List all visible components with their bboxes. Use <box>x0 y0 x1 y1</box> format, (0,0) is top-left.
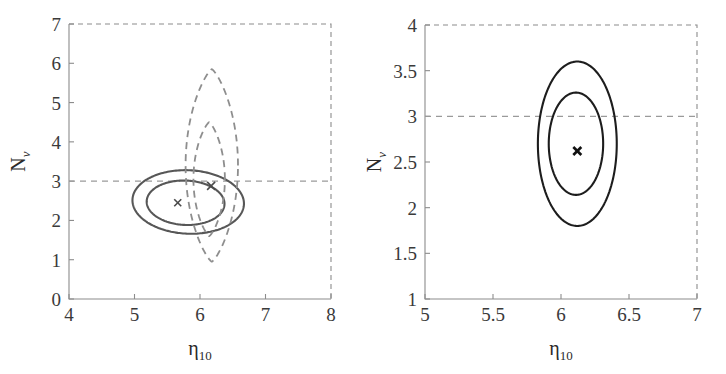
axis-frame-dashed-right <box>425 25 697 299</box>
best-fit-marker-a-left <box>174 199 181 206</box>
y-tick-label-right-4: 3 <box>408 106 418 127</box>
x-axis-title-subscript: 10 <box>560 348 573 363</box>
x-tick-label-right-3: 6.5 <box>617 304 641 325</box>
y-tick-label-left-5: 5 <box>52 93 62 114</box>
y-tick-label-right-3: 2.5 <box>393 152 417 173</box>
x-tick-label-right-0: 5 <box>420 304 430 325</box>
y-axis-title-base: N <box>7 157 29 171</box>
y-tick-label-left-6: 6 <box>52 53 62 74</box>
x-axis-title-base: η <box>549 337 559 360</box>
x-tick-label-left-4: 8 <box>326 304 336 325</box>
y-tick-label-right-0: 1 <box>408 289 418 310</box>
y-tick-label-right-2: 2 <box>408 198 418 219</box>
x-axis-title-subscript: 10 <box>199 348 212 363</box>
contour-figure-canvas: 4567801234567η10Nν55.566.5711.522.533.54… <box>0 0 726 374</box>
solid-inner-contour-right <box>549 93 603 195</box>
x-axis-title-right: η10 <box>549 337 572 363</box>
x-tick-label-left-1: 5 <box>130 304 140 325</box>
x-tick-label-right-4: 7 <box>692 304 702 325</box>
panel-left: 4567801234567η10Nν <box>7 14 336 363</box>
dashed-inner-contour-left <box>193 122 224 236</box>
y-tick-label-right-1: 1.5 <box>393 243 417 264</box>
figure-root: 4567801234567η10Nν55.566.5711.522.533.54… <box>0 0 726 374</box>
y-tick-label-left-2: 2 <box>52 210 62 231</box>
y-axis-title-subscript: ν <box>374 152 389 158</box>
y-axis-title-right: Nν <box>363 152 389 172</box>
axis-frame-dashed-left <box>69 24 331 299</box>
y-tick-label-right-6: 4 <box>408 15 418 36</box>
y-tick-label-left-4: 4 <box>52 132 62 153</box>
y-axis-title-left: Nν <box>7 151 33 171</box>
y-tick-label-left-3: 3 <box>52 171 62 192</box>
y-tick-label-left-0: 0 <box>52 289 62 310</box>
x-tick-label-left-2: 6 <box>195 304 205 325</box>
x-axis-title-left: η10 <box>188 337 211 363</box>
y-tick-label-right-5: 3.5 <box>393 61 417 82</box>
x-axis-title-base: η <box>188 337 198 360</box>
best-fit-marker-right <box>573 147 581 155</box>
axis-spines-left <box>69 24 331 299</box>
x-tick-label-left-0: 4 <box>64 304 74 325</box>
y-axis-title-subscript: ν <box>18 151 33 157</box>
y-tick-label-left-1: 1 <box>52 250 62 271</box>
y-tick-label-left-7: 7 <box>52 14 62 35</box>
x-tick-label-left-3: 7 <box>261 304 271 325</box>
x-tick-label-right-2: 6 <box>556 304 566 325</box>
y-axis-title-base: N <box>363 158 385 172</box>
panel-right: 55.566.5711.522.533.54η10Nν <box>363 15 702 363</box>
axis-spines-right <box>425 25 697 299</box>
x-tick-label-right-1: 5.5 <box>481 304 505 325</box>
